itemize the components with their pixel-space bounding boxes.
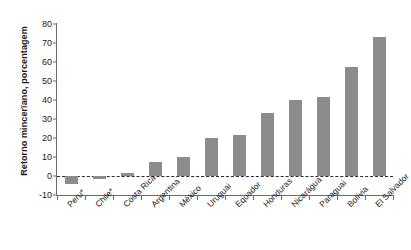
x-axis-tick-mark: [281, 195, 282, 200]
x-axis-tick-mark: [57, 195, 58, 200]
x-axis-tick-label: Bolívia: [345, 184, 370, 209]
x-axis-tick-mark: [309, 195, 310, 200]
x-axis-tick-mark: [253, 195, 254, 200]
x-axis-tick-mark: [365, 195, 366, 200]
x-axis-tick-mark: [197, 195, 198, 200]
x-axis-tick-mark: [225, 195, 226, 200]
x-axis-tick-label: El Salvador: [373, 171, 411, 209]
x-axis-tick-mark: [169, 195, 170, 200]
x-axis-tick-mark: [337, 195, 338, 200]
x-axis-tick-mark: [141, 195, 142, 200]
x-axis-tick-mark: [113, 195, 114, 200]
x-axis-tick-label: Honduras: [261, 176, 294, 209]
x-axis-tick-mark: [85, 195, 86, 200]
x-axis-tick-label: Peru*: [65, 187, 87, 209]
x-axis-tick-label: México: [177, 183, 203, 209]
x-axis-tick-label: Equador: [233, 179, 263, 209]
x-axis-tick-label: Uruguai: [205, 181, 233, 209]
x-axis-tick-mark: [393, 195, 394, 200]
